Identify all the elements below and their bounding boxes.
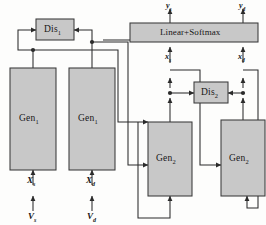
signal-label-Xd: Xd <box>86 176 95 187</box>
block-label-gen2-left: Gen2 <box>156 154 176 165</box>
block-label-gen1-right: Gen1 <box>78 114 98 125</box>
figure-canvas: Dis1 Dis2 Linear+Softmax Gen1 Gen1 Gen2 … <box>0 0 266 225</box>
signal-label-yd: yd <box>239 2 245 12</box>
block-label-dis1: Dis1 <box>44 25 61 36</box>
block-label-classifier: Linear+Softmax <box>160 28 220 37</box>
block-label-dis2: Dis2 <box>201 88 218 99</box>
signal-label-xd-mid: xd <box>238 53 245 63</box>
signal-label-xs-mid: xs <box>165 53 171 63</box>
diagram-wiring <box>0 0 266 225</box>
signal-label-ys: ys <box>166 2 172 12</box>
wire-gen1right-to-dis1 <box>74 30 92 42</box>
signal-label-Vd: Vd <box>87 212 96 223</box>
signal-label-Vs: Vs <box>28 212 36 223</box>
signal-label-Xs: Xs <box>27 176 35 187</box>
wire-gen1left-to-dis1 <box>18 30 36 50</box>
block-label-gen1-left: Gen1 <box>19 114 39 125</box>
block-label-gen2-right: Gen2 <box>229 154 249 165</box>
